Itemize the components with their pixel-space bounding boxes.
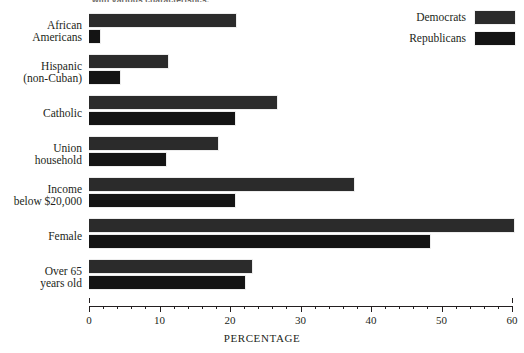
x-tick-minor	[456, 306, 457, 309]
bar-democrats-3	[89, 136, 219, 151]
category-label: Unionhousehold	[0, 141, 82, 166]
x-tick-minor	[470, 306, 471, 309]
bar-republicans-4	[89, 193, 236, 208]
category-label-line: Over 65	[0, 264, 82, 277]
x-tick-minor	[315, 306, 316, 309]
x-tick-minor	[329, 306, 330, 309]
x-axis-left-cap	[89, 298, 90, 303]
x-tick-label: 40	[366, 314, 377, 326]
category-row: Hispanic(non-Cuban)	[0, 51, 524, 92]
category-label: Over 65years old	[0, 264, 82, 289]
category-label-line: Catholic	[0, 106, 82, 119]
x-tick-label: 20	[225, 314, 236, 326]
x-tick-minor	[385, 306, 386, 309]
plot-area: AfricanAmericansHispanic(non-Cuban)Catho…	[0, 0, 524, 302]
x-tick-major	[160, 306, 161, 312]
category-row: AfricanAmericans	[0, 10, 524, 51]
x-tick-major	[89, 306, 90, 312]
x-tick-minor	[498, 306, 499, 309]
x-tick-minor	[103, 306, 104, 309]
bar-republicans-0	[89, 29, 101, 44]
x-tick-label: 30	[295, 314, 306, 326]
category-label-line: below $20,000	[0, 195, 82, 208]
x-tick-label: 50	[436, 314, 447, 326]
bar-democrats-2	[89, 95, 278, 110]
bar-republicans-2	[89, 111, 236, 126]
bar-democrats-6	[89, 259, 253, 274]
category-label-line: household	[0, 154, 82, 167]
x-tick-minor	[174, 306, 175, 309]
category-label-line: African	[0, 18, 82, 31]
x-axis-title: PERCENTAGE	[0, 332, 524, 344]
x-tick-minor	[399, 306, 400, 309]
category-label-line: Hispanic	[0, 59, 82, 72]
bar-republicans-6	[89, 275, 246, 290]
category-label-line: Union	[0, 141, 82, 154]
x-tick-major	[371, 306, 372, 312]
bar-democrats-4	[89, 177, 355, 192]
x-tick-minor	[202, 306, 203, 309]
x-tick-minor	[343, 306, 344, 309]
category-row: Catholic	[0, 92, 524, 133]
x-tick-major	[442, 306, 443, 312]
category-label-line: years old	[0, 277, 82, 290]
x-tick-label: 60	[507, 314, 518, 326]
category-label: Catholic	[0, 106, 82, 119]
category-label: Incomebelow $20,000	[0, 182, 82, 207]
category-label-line: Female	[0, 229, 82, 242]
x-tick-minor	[427, 306, 428, 309]
bar-democrats-5	[89, 218, 515, 233]
x-tick-major	[230, 306, 231, 312]
category-row: Over 65years old	[0, 256, 524, 297]
x-axis: 0102030405060 PERCENTAGE	[0, 302, 524, 353]
category-label-line: Income	[0, 182, 82, 195]
x-tick-minor	[357, 306, 358, 309]
x-axis-right-cap	[512, 298, 513, 303]
category-row: Incomebelow $20,000	[0, 174, 524, 215]
bar-republicans-1	[89, 70, 121, 85]
x-tick-minor	[258, 306, 259, 309]
x-tick-minor	[188, 306, 189, 309]
x-tick-minor	[484, 306, 485, 309]
bar-chart-figure: with various characteristics. Democrats …	[0, 0, 524, 353]
bar-republicans-3	[89, 152, 167, 167]
category-row: Female	[0, 215, 524, 256]
category-label: Female	[0, 229, 82, 242]
category-label-line: Americans	[0, 31, 82, 44]
x-tick-minor	[145, 306, 146, 309]
x-tick-label: 10	[154, 314, 165, 326]
x-tick-minor	[131, 306, 132, 309]
x-tick-minor	[117, 306, 118, 309]
x-tick-minor	[413, 306, 414, 309]
category-label: Hispanic(non-Cuban)	[0, 59, 82, 84]
x-tick-label: 0	[86, 314, 92, 326]
x-tick-minor	[216, 306, 217, 309]
category-label-line: (non-Cuban)	[0, 72, 82, 85]
x-tick-minor	[272, 306, 273, 309]
bar-democrats-0	[89, 13, 237, 28]
bar-democrats-1	[89, 54, 169, 69]
x-tick-minor	[286, 306, 287, 309]
category-row: Unionhousehold	[0, 133, 524, 174]
bar-republicans-5	[89, 234, 431, 249]
x-tick-major	[301, 306, 302, 312]
x-tick-minor	[244, 306, 245, 309]
x-tick-major	[512, 306, 513, 312]
category-label: AfricanAmericans	[0, 18, 82, 43]
